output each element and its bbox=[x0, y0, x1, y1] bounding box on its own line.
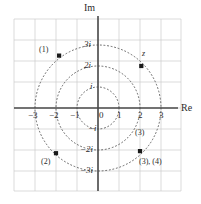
real-tick--1: −1 bbox=[70, 111, 80, 120]
real-tick-3: 3 bbox=[159, 111, 164, 120]
point-1 bbox=[57, 54, 61, 58]
imag-tick--2i: −2i bbox=[80, 145, 93, 154]
imag-tick-i: i bbox=[90, 82, 93, 91]
point-34 bbox=[138, 149, 142, 153]
point-label-3-4: (3), (4) bbox=[139, 158, 162, 166]
real-tick--2: −2 bbox=[49, 111, 59, 120]
argand-diagram-figure: Im Re 0 −3 −2 −1 1 2 3 3i 2i i −i −2i −3… bbox=[0, 0, 201, 204]
point-label-1: (1) bbox=[39, 46, 48, 54]
imag-tick--3i: −3i bbox=[80, 166, 93, 175]
annotation-3: (3) bbox=[135, 129, 144, 137]
imag-tick--i: −i bbox=[88, 124, 97, 133]
origin-label: 0 bbox=[99, 111, 104, 120]
point-label-2: (2) bbox=[41, 158, 50, 166]
imag-axis-label: Im bbox=[84, 3, 95, 13]
point-z bbox=[139, 64, 143, 68]
point-2 bbox=[54, 151, 58, 155]
real-tick-1: 1 bbox=[117, 111, 122, 120]
imag-tick-3i: 3i bbox=[84, 40, 91, 49]
real-axis-label: Re bbox=[181, 103, 192, 113]
complex-plane-plot bbox=[0, 0, 201, 204]
real-tick-2: 2 bbox=[138, 111, 143, 120]
real-tick--3: −3 bbox=[28, 111, 38, 120]
point-label-z: z bbox=[142, 50, 145, 58]
imag-tick-2i: 2i bbox=[84, 61, 91, 70]
